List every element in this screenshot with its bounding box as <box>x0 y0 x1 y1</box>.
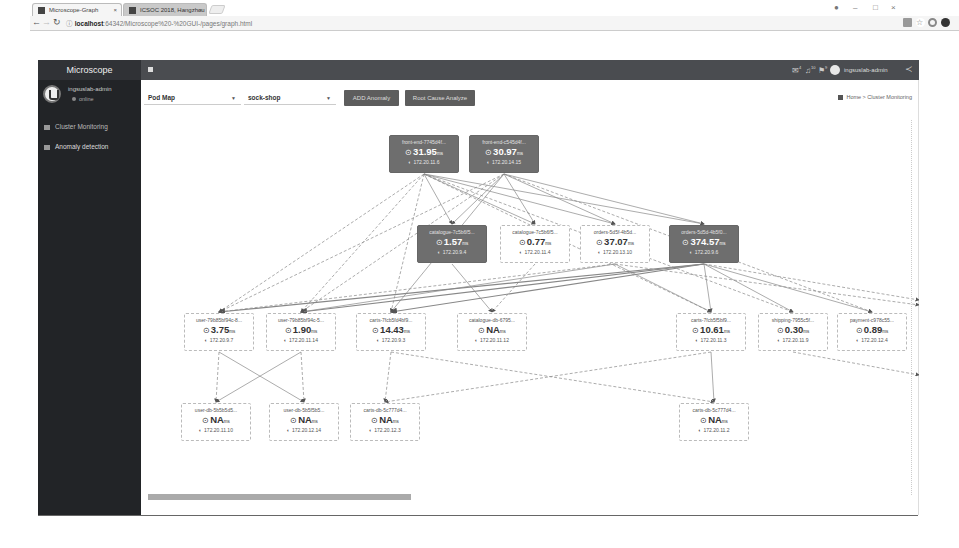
forward-icon[interactable]: → <box>42 17 51 27</box>
url-host: localhost <box>75 20 104 27</box>
app-logo[interactable]: Microscope <box>38 60 141 80</box>
extension-icon[interactable] <box>903 18 912 27</box>
node-name: front-end-c545d4f... <box>470 139 538 145</box>
graph-node-udb2[interactable]: user-db-5b5f5b5...⊙NAms◐172.20.12.14 <box>269 403 339 441</box>
view-select[interactable]: Pod Map ▼ <box>144 91 241 105</box>
screen: Microscope-Graph × ICSOC 2018, Hangzhou … <box>0 0 959 548</box>
graph-node-catdb[interactable]: catalogue-db-6795...⊙NAms◐172.20.11.12 <box>457 313 527 351</box>
new-tab-button[interactable] <box>208 5 225 14</box>
user-panel: ingsuslab-admin online <box>38 85 141 120</box>
node-name: catalogue-7c5b6f5... <box>418 229 486 235</box>
root-cause-analyze-button[interactable]: Root Cause Analyze <box>405 90 475 106</box>
badge: 9 <box>825 65 827 70</box>
sidebar-item-cluster-monitoring[interactable]: Cluster Monitoring <box>44 123 108 130</box>
profile-icon[interactable]: ● <box>834 3 839 12</box>
breadcrumb-home[interactable]: Home <box>846 94 861 100</box>
dashboard-icon <box>44 125 50 130</box>
table-icon <box>44 145 50 150</box>
graph-node-ord1[interactable]: orders-5d5f-4b5d...⊙37.07ms◐172.20.13.10 <box>580 225 650 263</box>
node-latency: ⊙31.95ms <box>390 146 458 157</box>
node-ip: ◐172.20.11.9 <box>759 337 827 343</box>
node-ip: ◐172.20.12.14 <box>270 427 338 433</box>
close-window-button[interactable]: × <box>891 3 896 12</box>
url-path: :64342/Microscope%20-%20GUI-/pages/graph… <box>103 20 252 27</box>
network-icon: ◐ <box>438 249 441 255</box>
maximize-button[interactable]: □ <box>873 3 878 12</box>
back-icon[interactable]: ← <box>32 17 41 27</box>
node-latency: ⊙NAms <box>270 414 338 425</box>
network-icon: ◐ <box>284 337 287 343</box>
network-icon: ◐ <box>199 427 202 433</box>
flag-icon[interactable]: ⚑9 <box>818 65 827 75</box>
graph-node-cat2[interactable]: catalogue-7c5b6f5...⊙0.77ms◐172.20.11.4 <box>500 225 570 263</box>
sidebar-item-label: Anomaly detection <box>55 143 108 150</box>
graph-node-fe2[interactable]: front-end-c545d4f...⊙30.97ms◐172.20.14.1… <box>469 135 539 173</box>
network-icon: ◐ <box>777 337 780 343</box>
clock-icon: ⊙ <box>285 326 292 335</box>
clock-icon: ⊙ <box>777 326 784 335</box>
browser-tab-microscope[interactable]: Microscope-Graph × <box>32 3 122 16</box>
reload-icon[interactable]: ↻ <box>53 17 61 27</box>
clock-icon: ⊙ <box>203 326 210 335</box>
node-ip: ◐172.20.9.7 <box>185 337 253 343</box>
url-field[interactable]: ⓘ localhost:64342/Microscope%20-%20GUI-/… <box>66 18 252 29</box>
node-name: orders-5d5d-4b5f0... <box>670 229 738 235</box>
namespace-select[interactable]: sock-shop ▼ <box>244 91 336 105</box>
share-icon[interactable]: ≺ <box>905 64 913 74</box>
star-icon[interactable]: ☆ <box>916 18 925 27</box>
user-avatar[interactable] <box>830 65 840 75</box>
graph-node-pay[interactable]: payment-c978c55...⊙0.89ms◐172.20.12.4 <box>837 313 907 351</box>
graph-node-cdb2[interactable]: carts-db-5c777d4...⊙NAms◐172.20.11.2 <box>679 403 749 441</box>
breadcrumb-current: Cluster Monitoring <box>867 94 912 100</box>
bell-icon[interactable]: ♫10 <box>805 65 815 75</box>
envelope-icon[interactable]: ✉4 <box>792 65 801 75</box>
graph-node-udb1[interactable]: user-db-5b5b5d5...⊙NAms◐172.20.11.10 <box>181 403 251 441</box>
graph-node-crt2[interactable]: carts-7fcb5f5bf9...⊙10.61ms◐172.20.11.3 <box>676 313 746 351</box>
graph-node-ord2[interactable]: orders-5d5d-4b5f0...⊙374.57ms◐172.20.9.6 <box>669 225 739 263</box>
browser-tab-icsoc[interactable]: ICSOC 2018, Hangzhou × <box>123 3 207 16</box>
minimize-button[interactable]: – <box>853 3 857 12</box>
menu-icon[interactable] <box>941 18 950 27</box>
node-name: payment-c978c55... <box>838 317 906 323</box>
graph-node-shp[interactable]: shipping-7955c5f...⊙0.30ms◐172.20.11.9 <box>758 313 828 351</box>
user-menu[interactable]: ingsuslab-admin <box>844 65 888 75</box>
clock-icon: ⊙ <box>371 416 378 425</box>
graph-edges <box>141 120 919 500</box>
favicon-icon <box>38 7 45 14</box>
graph-node-usr1[interactable]: user-79b85bf94c-8...⊙3.75ms◐172.20.9.7 <box>184 313 254 351</box>
node-latency: ⊙14.43ms <box>357 324 425 335</box>
graph-node-usr2[interactable]: user-79b85bf94c-5...⊙1.90ms◐172.20.11.14 <box>266 313 336 351</box>
extension-circle-icon[interactable] <box>928 18 937 27</box>
clock-icon: ⊙ <box>700 416 707 425</box>
clock-icon: ⊙ <box>478 326 485 335</box>
view-select-value: Pod Map <box>148 94 175 101</box>
close-tab-icon[interactable]: × <box>113 4 117 16</box>
sidebar-item-anomaly-detection[interactable]: Anomaly detection <box>44 143 108 150</box>
node-name: carts-db-5c777d4... <box>351 407 419 413</box>
clock-icon: ⊙ <box>485 148 492 157</box>
network-icon: ◐ <box>698 427 701 433</box>
node-ip: ◐172.20.11.14 <box>267 337 335 343</box>
node-latency: ⊙37.07ms <box>581 236 649 247</box>
network-icon: ◐ <box>695 337 698 343</box>
node-latency: ⊙3.75ms <box>185 324 253 335</box>
close-tab-icon[interactable]: × <box>198 4 202 16</box>
node-name: catalogue-db-6795... <box>458 317 526 323</box>
add-anomaly-button[interactable]: ADD Anomaly <box>344 90 399 106</box>
sidebar-item-label: Cluster Monitoring <box>55 123 108 130</box>
graph-node-cat1[interactable]: catalogue-7c5b6f5...⊙1.57ms◐172.20.9.4 <box>417 225 487 263</box>
scrollbar-thumb[interactable] <box>148 494 411 500</box>
clock-icon: ⊙ <box>436 238 443 247</box>
graph-node-crt1[interactable]: carts-7fcb5fd4bf9...⊙14.43ms◐172.20.9.3 <box>356 313 426 351</box>
clock-icon: ⊙ <box>856 326 863 335</box>
node-latency: ⊙10.61ms <box>677 324 745 335</box>
sidebar-toggle-icon[interactable] <box>148 67 153 72</box>
node-latency: ⊙30.97ms <box>470 146 538 157</box>
node-latency: ⊙1.57ms <box>418 236 486 247</box>
pod-map-graph[interactable]: front-end-7745d4f...⊙31.95ms◐172.20.11.6… <box>141 120 919 500</box>
node-ip: ◐172.20.11.4 <box>501 249 569 255</box>
graph-node-cdb1[interactable]: carts-db-5c777d4...⊙NAms◐172.20.12.3 <box>350 403 420 441</box>
horizontal-scrollbar[interactable] <box>148 494 910 500</box>
graph-node-fe1[interactable]: front-end-7745d4f...⊙31.95ms◐172.20.11.6 <box>389 135 459 173</box>
node-name: front-end-7745d4f... <box>390 139 458 145</box>
